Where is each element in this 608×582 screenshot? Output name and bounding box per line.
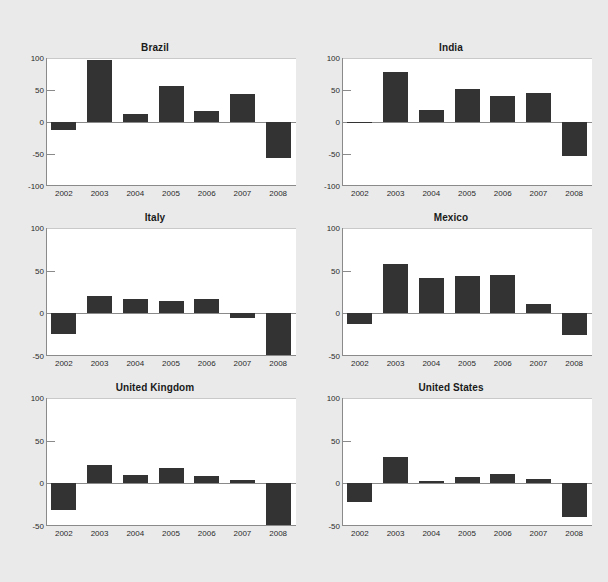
bar (51, 122, 76, 130)
x-tick-label: 2005 (458, 359, 476, 368)
x-tick-label: 2007 (234, 359, 252, 368)
x-tick-label: 2007 (234, 189, 252, 198)
bar (455, 276, 480, 314)
x-tick-label: 2002 (55, 359, 73, 368)
y-tick-label: 50 (310, 86, 340, 95)
bar (123, 299, 148, 314)
y-tick-label: -50 (310, 522, 340, 531)
bar (159, 86, 184, 122)
zero-baseline (342, 313, 592, 314)
x-axis-line (342, 185, 592, 186)
y-tick-label: -100 (14, 182, 44, 191)
x-axis-line (46, 355, 296, 356)
y-tick-label: 100 (310, 54, 340, 63)
bar (383, 457, 408, 483)
zero-baseline (342, 122, 592, 123)
y-tick-labels: 100500-50 (310, 228, 340, 356)
chart-panel: United Kingdom100500-5020022003200420052… (14, 382, 296, 556)
x-tick-label: 2008 (269, 359, 287, 368)
plot-area (46, 58, 296, 186)
bar (562, 313, 587, 334)
chart-panel: Brazil100500-50-100200220032004200520062… (14, 42, 296, 216)
y-axis-line (46, 398, 47, 526)
x-axis-line (46, 525, 296, 526)
x-tick-label: 2003 (387, 529, 405, 538)
chart-title: Brazil (14, 42, 296, 53)
plot-area (342, 58, 592, 186)
x-axis-line (342, 525, 592, 526)
y-tick-label: -50 (14, 150, 44, 159)
y-tick-label: -50 (14, 352, 44, 361)
x-tick-label: 2004 (422, 359, 440, 368)
bar (347, 122, 372, 123)
plot-background (342, 398, 592, 526)
y-tick-label: 50 (14, 266, 44, 275)
bar (455, 89, 480, 122)
plot-area (46, 398, 296, 526)
bar (562, 122, 587, 156)
bar (562, 483, 587, 517)
y-axis-line (342, 228, 343, 356)
bar (194, 111, 219, 122)
bar (230, 94, 255, 122)
x-tick-labels: 2002200320042005200620072008 (46, 529, 296, 541)
x-tick-label: 2002 (351, 359, 369, 368)
axis-top-line (342, 398, 592, 399)
plot-background (46, 228, 296, 356)
bar (526, 304, 551, 313)
y-tick-label: 100 (310, 394, 340, 403)
y-tick-mark (47, 441, 55, 442)
x-tick-label: 2005 (458, 529, 476, 538)
chart-title: United States (310, 382, 592, 393)
bar (526, 93, 551, 122)
y-tick-label: 100 (14, 394, 44, 403)
x-tick-labels: 2002200320042005200620072008 (342, 359, 592, 371)
bar (87, 465, 112, 484)
y-tick-label: -50 (14, 522, 44, 531)
x-tick-label: 2007 (530, 189, 548, 198)
x-tick-label: 2007 (530, 359, 548, 368)
y-tick-label: 0 (14, 309, 44, 318)
chart-title: United Kingdom (14, 382, 296, 393)
chart-panel: Mexico100500-502002200320042005200620072… (310, 212, 592, 386)
y-tick-label: 100 (14, 224, 44, 233)
x-tick-label: 2005 (162, 189, 180, 198)
bar (383, 72, 408, 122)
x-tick-labels: 2002200320042005200620072008 (46, 189, 296, 201)
zero-baseline (46, 122, 296, 123)
plot-area (342, 398, 592, 526)
x-tick-label: 2004 (126, 359, 144, 368)
figure-canvas: Brazil100500-50-100200220032004200520062… (0, 0, 608, 582)
axis-top-line (342, 58, 592, 59)
y-tick-mark (47, 154, 55, 155)
axis-top-line (342, 228, 592, 229)
x-tick-label: 2008 (565, 189, 583, 198)
x-tick-label: 2004 (422, 189, 440, 198)
plot-background (342, 228, 592, 356)
zero-baseline (342, 483, 592, 484)
bar (383, 264, 408, 313)
bar (266, 313, 291, 356)
y-tick-mark (343, 441, 351, 442)
x-tick-label: 2002 (351, 529, 369, 538)
bar (490, 474, 515, 483)
bar (51, 483, 76, 509)
x-tick-label: 2007 (530, 529, 548, 538)
x-tick-label: 2002 (55, 189, 73, 198)
bar (87, 60, 112, 122)
bar (266, 483, 291, 526)
y-tick-label: 0 (14, 118, 44, 127)
x-tick-label: 2007 (234, 529, 252, 538)
x-tick-label: 2008 (565, 529, 583, 538)
chart-title: India (310, 42, 592, 53)
axis-top-line (46, 58, 296, 59)
bar (347, 483, 372, 502)
bar (194, 476, 219, 484)
plot-background (46, 398, 296, 526)
y-tick-label: -50 (310, 150, 340, 159)
chart-panel: India100500-50-1002002200320042005200620… (310, 42, 592, 216)
y-tick-mark (47, 90, 55, 91)
y-tick-label: 100 (14, 54, 44, 63)
bar (159, 468, 184, 483)
chart-panel: United States100500-50200220032004200520… (310, 382, 592, 556)
